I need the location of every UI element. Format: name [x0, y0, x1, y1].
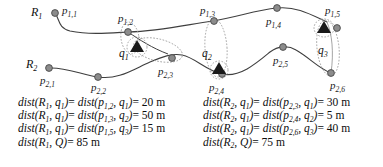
route-path-r2: [49, 47, 331, 78]
route-label-r1: R1: [31, 6, 42, 18]
route-label-r2: R2: [26, 58, 37, 70]
node-label-p2-5: p2,5: [273, 55, 288, 66]
figure-root: R1 R2 p1,1 p1,2 p1,3 p1,4 p1,5 p2,1 p2,2…: [0, 0, 383, 167]
equation-total-r2: dist(R2, Q)= 75 m: [203, 136, 350, 149]
equation-line: dist(R1, q1)= dist(p1,3, q2)= 50 m: [18, 109, 165, 122]
node-label-p2-6: p2,6: [330, 80, 345, 91]
equation-line: dist(R1, q1)= dist(p1,5, q3)= 15 m: [18, 122, 165, 135]
route-node-p1-2: [125, 29, 132, 36]
route-node-p1-5: [334, 25, 341, 32]
node-label-p2-2: p2,2: [91, 82, 106, 93]
route-node-p2-3: [169, 55, 176, 62]
equation-line: dist(R2, q1)= dist(p2,4, q2)= 5 m: [203, 109, 350, 122]
node-label-p1-2: p1,2: [118, 13, 133, 24]
query-label-q2: q2: [202, 48, 212, 60]
equation-total-r1: dist(R1, Q)= 85 m: [18, 136, 165, 149]
node-label-p1-5: p1,5: [325, 5, 340, 16]
equation-line: dist(R2, q1)= dist(p2,6, q3)= 40 m: [203, 122, 350, 135]
query-label-q1: q1: [119, 48, 129, 60]
node-label-p2-4: p2,4: [209, 82, 224, 93]
route-node-p2-1: [46, 65, 53, 72]
equation-line: dist(R2, q1)= dist(p2,3, q1)= 30 m: [203, 96, 350, 109]
node-label-p2-1: p2,1: [40, 75, 55, 86]
route-node-p2-6: [328, 70, 335, 77]
equation-block-r1: dist(R1, q1)= dist(p1,2, q1)= 20 m dist(…: [18, 96, 165, 149]
route-node-p2-5: [280, 44, 287, 51]
route-node-p2-2: [95, 74, 102, 81]
equation-line: dist(R1, q1)= dist(p1,2, q1)= 20 m: [18, 96, 165, 109]
route-node-p1-1: [52, 10, 59, 17]
node-label-p1-1: p1,1: [62, 5, 77, 16]
query-marker-q2: [212, 62, 226, 74]
node-label-p1-4: p1,4: [266, 16, 281, 27]
route-diagram: R1 R2 p1,1 p1,2 p1,3 p1,4 p1,5 p2,1 p2,2…: [0, 0, 383, 96]
route-path-r1: [55, 8, 327, 34]
query-label-q3: q3: [318, 45, 328, 57]
route-node-p1-4: [274, 5, 281, 12]
query-marker-q1: [130, 40, 144, 52]
equation-area: dist(R1, q1)= dist(p1,2, q1)= 20 m dist(…: [0, 96, 383, 167]
node-label-p1-3: p1,3: [200, 5, 215, 16]
equation-block-r2: dist(R2, q1)= dist(p2,3, q1)= 30 m dist(…: [203, 96, 350, 149]
node-label-p2-3: p2,3: [158, 66, 173, 77]
